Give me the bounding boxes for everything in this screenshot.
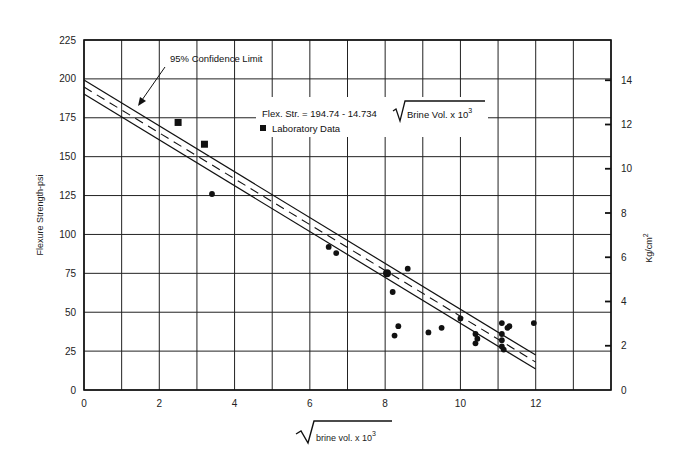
flexure-strength-chart: 0255075100125150175200225 02468101214 02… <box>0 0 678 471</box>
field-data-point <box>390 289 396 295</box>
x-tick-label: 8 <box>382 398 388 409</box>
field-data-point <box>333 250 339 256</box>
y2-tick-label: 10 <box>621 163 633 174</box>
y2-tick-label: 6 <box>621 252 627 263</box>
field-data-point <box>501 347 507 353</box>
y-axis-ticks: 0255075100125150175200225 <box>59 35 76 396</box>
y2-tick-label: 8 <box>621 208 627 219</box>
field-data-point <box>439 325 445 331</box>
field-data-point <box>499 320 505 326</box>
y2-tick-label: 2 <box>621 340 627 351</box>
field-data-point <box>383 269 391 277</box>
field-data-point <box>209 191 215 197</box>
field-data-point <box>392 333 398 339</box>
data-points <box>175 119 537 353</box>
svg-text:Brine Vol. x 103: Brine Vol. x 103 <box>407 107 472 120</box>
y2-axis-ticks: 02468101214 <box>605 75 633 396</box>
y-tick-label: 150 <box>59 151 76 162</box>
field-data-point <box>499 337 505 343</box>
y2-tick-label: 12 <box>621 119 633 130</box>
svg-text:brine vol. x 103: brine vol. x 103 <box>316 430 376 443</box>
x-tick-label: 10 <box>455 398 467 409</box>
y-tick-label: 175 <box>59 112 76 123</box>
y-tick-label: 50 <box>65 307 77 318</box>
x-tick-label: 4 <box>232 398 238 409</box>
y2-tick-label: 4 <box>621 296 627 307</box>
grid-lines <box>84 40 611 390</box>
y2-tick-label: 0 <box>621 385 627 396</box>
confidence-annotation: 95% Confidence Limit <box>138 53 263 106</box>
svg-text:Flex. Str. = 194.74 - 14.734: Flex. Str. = 194.74 - 14.734 <box>262 108 377 119</box>
field-data-point <box>326 244 332 250</box>
x-tick-label: 0 <box>81 398 87 409</box>
field-data-point <box>405 266 411 272</box>
x-tick-label: 2 <box>157 398 163 409</box>
field-data-point <box>426 330 432 336</box>
y-tick-label: 200 <box>59 73 76 84</box>
lab-data-point <box>201 141 208 148</box>
x-tick-label: 6 <box>307 398 313 409</box>
svg-text:Laboratory Data: Laboratory Data <box>272 123 341 134</box>
y2-tick-label: 14 <box>621 75 633 86</box>
y-axis-label: Flexure Strength-psi <box>35 174 45 255</box>
legend-square-marker-icon <box>260 125 266 131</box>
x-axis-label: brine vol. x 103 <box>296 421 392 443</box>
y-tick-label: 125 <box>59 190 76 201</box>
svg-text:95% Confidence Limit: 95% Confidence Limit <box>170 53 263 64</box>
field-data-point <box>531 320 537 326</box>
y-tick-label: 0 <box>70 385 76 396</box>
field-data-point <box>395 323 401 329</box>
y-tick-label: 225 <box>59 35 76 46</box>
y-tick-label: 100 <box>59 229 76 240</box>
x-tick-label: 12 <box>530 398 542 409</box>
field-data-point <box>458 316 464 322</box>
field-data-point <box>499 331 505 337</box>
legend: Laboratory Data <box>260 123 341 134</box>
field-data-point <box>506 323 512 329</box>
field-data-point <box>473 340 479 346</box>
y-tick-label: 75 <box>65 268 77 279</box>
y-tick-label: 25 <box>65 346 77 357</box>
arrow-head-icon <box>138 97 146 106</box>
x-axis-ticks: 024681012 <box>81 398 541 409</box>
y2-axis-label: Kg/cm2 <box>642 233 654 263</box>
lab-data-point <box>175 119 182 126</box>
